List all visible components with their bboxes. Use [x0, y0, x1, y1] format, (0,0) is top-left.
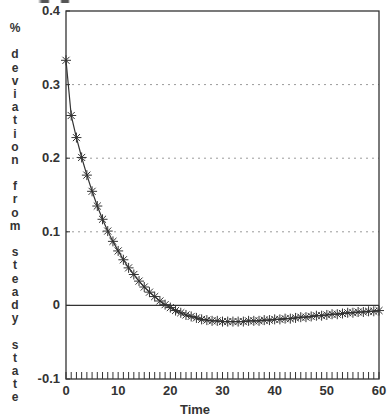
asterisk-marker-icon: [124, 263, 134, 273]
asterisk-marker-icon: [71, 133, 81, 143]
y-tick-label: 0: [53, 297, 60, 312]
asterisk-marker-icon: [129, 269, 139, 279]
series-line: [66, 60, 379, 321]
asterisk-marker-icon: [92, 201, 102, 211]
asterisk-marker-icon: [202, 315, 212, 325]
x-tick-label: 40: [260, 383, 290, 398]
asterisk-marker-icon: [306, 311, 316, 321]
y-tick-label: 0.4: [42, 3, 60, 18]
y-label-char: m: [10, 220, 21, 233]
asterisk-marker-icon: [165, 303, 175, 313]
asterisk-marker-icon: [103, 226, 113, 236]
y-label-char: e: [12, 62, 19, 75]
asterisk-marker-icon: [348, 308, 358, 318]
asterisk-marker-icon: [144, 287, 154, 297]
asterisk-marker-icon: [82, 170, 92, 180]
x-tick-label: 30: [208, 383, 238, 398]
x-tick-label: 60: [364, 383, 390, 398]
asterisk-marker-icon: [332, 309, 342, 319]
asterisk-marker-icon: [291, 313, 301, 323]
y-label-char: s: [12, 339, 19, 352]
line-chart: [0, 0, 390, 420]
x-axis-label: Time: [0, 402, 390, 417]
asterisk-marker-icon: [301, 312, 311, 322]
y-label-char: r: [13, 193, 18, 206]
x-minor-ticks: [66, 372, 379, 379]
y-label-char: o: [11, 207, 18, 220]
asterisk-marker-icon: [118, 255, 128, 265]
y-label-char: t: [13, 114, 17, 127]
asterisk-marker-icon: [113, 246, 123, 256]
asterisk-marker-icon: [317, 311, 327, 321]
y-label-char: o: [11, 141, 18, 154]
x-tick-label: 0: [51, 383, 81, 398]
asterisk-marker-icon: [358, 307, 368, 317]
asterisk-marker-icon: [337, 308, 347, 318]
asterisk-marker-icon: [66, 111, 76, 121]
y-label-char: a: [12, 286, 19, 299]
x-tick-label: 50: [312, 383, 342, 398]
y-label-char: i: [13, 128, 16, 141]
asterisk-marker-icon: [197, 314, 207, 324]
asterisk-marker-icon: [160, 300, 170, 310]
x-tick-label: 10: [103, 383, 133, 398]
y-tick-label: 0.2: [42, 150, 60, 165]
x-tick-label: 20: [155, 383, 185, 398]
gridlines: [66, 85, 379, 306]
y-label-char: v: [12, 75, 19, 88]
y-axis-label: %deviationfromsteadystate: [8, 22, 22, 404]
asterisk-marker-icon: [150, 292, 160, 302]
y-tick-label: 0.1: [42, 224, 60, 239]
y-tick-label: 0.3: [42, 77, 60, 92]
y-label-char: e: [12, 273, 19, 286]
asterisk-marker-icon: [264, 315, 274, 325]
asterisk-marker-icon: [275, 314, 285, 324]
asterisk-marker-icon: [369, 306, 379, 316]
asterisk-marker-icon: [87, 186, 97, 196]
asterisk-marker-icon: [98, 214, 108, 224]
asterisk-marker-icon: [108, 236, 118, 246]
y-label-char: t: [13, 259, 17, 272]
y-label-char: t: [13, 352, 17, 365]
y-label-char: %: [10, 22, 21, 35]
asterisk-marker-icon: [212, 316, 222, 326]
asterisk-marker-icon: [285, 314, 295, 324]
y-label-char: d: [11, 48, 18, 61]
asterisk-marker-icon: [238, 317, 248, 327]
asterisk-marker-icon: [77, 152, 87, 162]
asterisk-marker-icon: [254, 316, 264, 326]
y-label-char: y: [12, 312, 19, 325]
data-series: [61, 55, 384, 326]
asterisk-marker-icon: [322, 310, 332, 320]
y-label-char: n: [11, 154, 18, 167]
